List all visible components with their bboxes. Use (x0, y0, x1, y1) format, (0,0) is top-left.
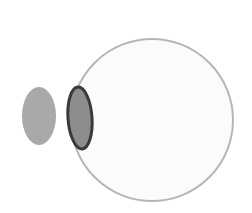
globe-circle (71, 39, 233, 201)
figure-canvas: Simple optical schematic: a small gray e… (0, 0, 252, 213)
optical-diagram-svg: Simple optical schematic: a small gray e… (0, 0, 252, 213)
object-ellipse (22, 87, 56, 145)
